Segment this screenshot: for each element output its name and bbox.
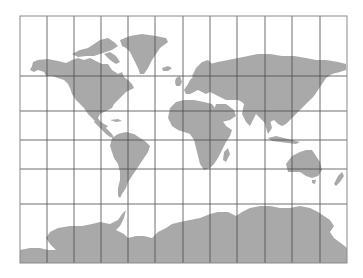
north-america [30,58,134,128]
tasmania [312,180,316,184]
map-canvas [0,0,363,278]
south-america [110,132,150,198]
british-isles [175,76,182,86]
new-zealand [334,172,344,186]
greenland [120,34,168,74]
landmasses [20,34,347,263]
australia [286,150,322,178]
madagascar [223,148,230,162]
antarctica [20,206,347,263]
iceland [162,66,172,71]
world-map [0,0,363,278]
caribbean-islands [110,119,122,122]
central-america [94,118,114,138]
baffin-island [104,52,120,64]
